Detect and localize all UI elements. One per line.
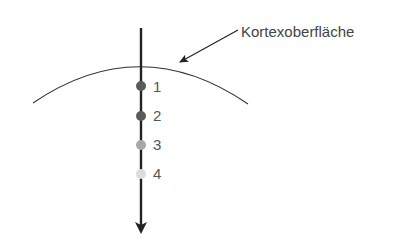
point-label-1: 1	[153, 79, 161, 94]
point-label-2: 2	[153, 108, 161, 123]
cortex-surface-label: Kortexoberfläche	[241, 23, 354, 40]
recording-point-1	[136, 81, 146, 91]
label-pointer-arrow	[180, 30, 238, 62]
recording-point-2	[136, 111, 146, 121]
recording-point-3	[136, 140, 146, 150]
point-label-3: 3	[153, 137, 161, 152]
recording-point-4	[136, 169, 146, 179]
point-label-4: 4	[153, 166, 161, 181]
